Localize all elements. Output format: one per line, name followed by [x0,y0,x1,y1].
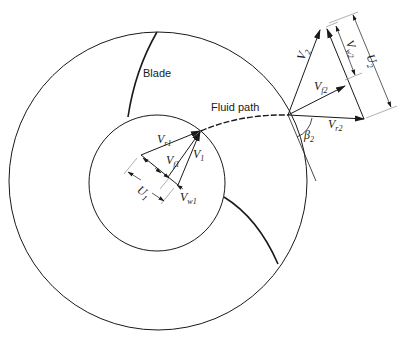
u1-dim-right [152,193,164,201]
blade-label: Blade [143,67,171,79]
v1-label: V1 [193,147,204,163]
u1-ext-left [124,158,137,174]
v2-arrow [288,30,320,115]
vw2-label: Vw2 [341,38,362,60]
vw1-ext [160,178,169,189]
impeller-diagram: Blade Fluid path Vr1 Vf1 V1 U1 Vw1 V2 Vf… [0,0,404,339]
u2-ext-top [329,12,358,23]
u1-label: U1 [133,183,153,203]
vr1-label: Vr1 [157,132,171,148]
vf1-label: Vf1 [166,153,180,169]
fluid-path [201,115,288,131]
u2-label: U2 [362,52,382,70]
vw1-label: Vw1 [180,190,197,206]
v2-label: V2 [294,46,313,62]
vf2-label: Vf2 [314,79,328,95]
vr2-label: Vr2 [328,117,342,133]
fluid-path-label: Fluid path [211,101,259,113]
vr2-arrow [288,115,364,119]
u1-dim-left [128,172,141,180]
u1-ext-right [161,188,174,204]
blade-lower [224,197,278,264]
vw2-ext-bottom [345,73,362,80]
outlet-tangent-line [288,115,316,181]
vw1-arrow-right [177,185,183,189]
beta2-label: β2 [303,128,314,144]
u2-ext-bottom [366,106,397,118]
